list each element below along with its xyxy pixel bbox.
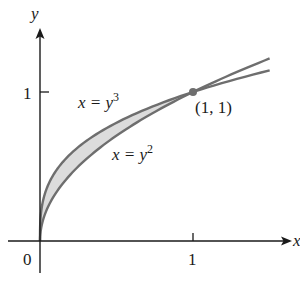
x-tick-label: 1	[188, 250, 197, 269]
y-tick-label: 1	[23, 84, 32, 103]
origin-label: 0	[23, 250, 32, 269]
label-square-exp: 2	[147, 142, 153, 156]
y-axis-label: y	[29, 4, 39, 23]
label-cube-exp: 3	[113, 90, 119, 104]
label-square-lhs: x = y	[111, 145, 148, 164]
x-axis-label: x	[292, 231, 300, 250]
intersection-point-label: (1, 1)	[195, 98, 232, 117]
label-cube-lhs: x = y	[77, 93, 114, 112]
intersection-point-marker	[189, 88, 197, 96]
shaded-region	[40, 92, 193, 241]
label-x-equals-y-squared: x = y2	[111, 142, 153, 164]
label-x-equals-y-cubed: x = y3	[77, 90, 119, 112]
region-between-curves-diagram: y x 0 1 1 x = y3 x = y2 (1, 1)	[0, 0, 300, 281]
